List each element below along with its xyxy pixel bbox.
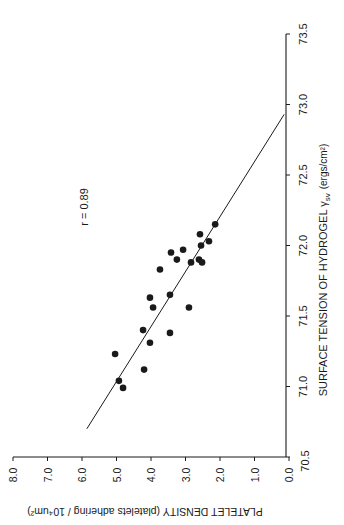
- data-point: [180, 246, 187, 253]
- x-tick-label: 4.0: [145, 468, 157, 483]
- x-tick-label: 6.0: [76, 468, 88, 483]
- axis-labels: 0.01.02.03.04.05.06.07.08.070.571.071.57…: [7, 23, 311, 482]
- y-tick-label: 72.5: [297, 164, 309, 185]
- data-point: [147, 339, 154, 346]
- data-point: [168, 249, 175, 256]
- data-point: [199, 259, 206, 266]
- y-tick-label: 72.0: [297, 235, 309, 256]
- data-point: [188, 259, 195, 266]
- data-point: [150, 304, 157, 311]
- y-axis-title-subscript: sv: [323, 193, 332, 201]
- x-tick-label: 3.0: [180, 468, 192, 483]
- y-tick-label: 71.0: [297, 376, 309, 397]
- data-points: [112, 221, 219, 391]
- data-point: [141, 366, 148, 373]
- y-axis-title: SURFACE TENSION OF HYDROGEL γsv(ergs/cm²…: [317, 144, 332, 397]
- x-tick-label: 8.0: [7, 468, 19, 483]
- scatter-chart: 0.01.02.03.04.05.06.07.08.070.571.071.57…: [0, 0, 344, 525]
- data-point: [120, 385, 127, 392]
- data-point: [116, 378, 123, 385]
- data-point: [167, 292, 174, 299]
- x-tick-label: 1.0: [249, 468, 261, 483]
- y-tick-label: 71.5: [297, 305, 309, 326]
- y-axis-title-unit: (ergs/cm²): [318, 144, 329, 190]
- data-point: [197, 231, 204, 238]
- data-point: [157, 266, 164, 273]
- data-point: [167, 330, 174, 337]
- correlation-annotation: r = 0.89: [78, 188, 90, 226]
- axes: [13, 34, 290, 461]
- data-point: [186, 304, 193, 311]
- y-tick-label: 73.5: [297, 23, 309, 44]
- data-point: [140, 327, 147, 334]
- data-point: [174, 256, 181, 263]
- x-tick-label: 2.0: [214, 468, 226, 483]
- data-point: [212, 221, 219, 228]
- data-point: [206, 238, 213, 245]
- x-tick-label: 7.0: [42, 468, 54, 483]
- data-point: [147, 294, 154, 301]
- x-tick-label: 5.0: [111, 468, 123, 483]
- x-axis-title: PLATELET DENSITY (platelets adhering / 1…: [27, 506, 263, 518]
- y-tick-label: 70.5: [299, 450, 311, 471]
- x-tick-label: 0.0: [283, 468, 295, 483]
- data-point: [112, 351, 119, 358]
- y-axis-title-main: SURFACE TENSION OF HYDROGEL γ: [317, 201, 329, 396]
- data-point: [198, 242, 205, 249]
- y-tick-label: 73.0: [297, 94, 309, 115]
